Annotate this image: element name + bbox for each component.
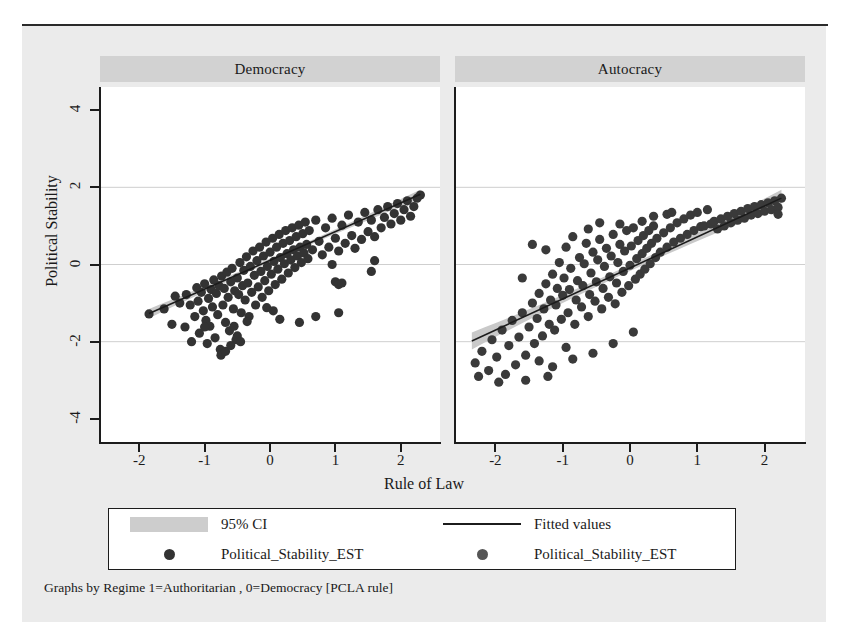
x-axis-tick: [494, 444, 496, 452]
x-axis-tick-label: -2: [480, 452, 510, 469]
panel-title-democracy: Democracy: [235, 61, 306, 78]
x-axis-tick: [629, 444, 631, 452]
x-axis-tick-label: 1: [320, 452, 350, 469]
x-axis-tick-label: 2: [386, 452, 416, 469]
x-axis-tick-label: -2: [124, 452, 154, 469]
y-axis-line-democracy: [99, 87, 101, 444]
legend-label-fitted: Fitted values: [534, 516, 611, 533]
x-axis-tick-label: -1: [190, 452, 220, 469]
legend-label-points-democracy: Political_Stability_EST: [221, 546, 364, 563]
x-axis-tick: [269, 444, 271, 452]
scatter-plot-autocracy: [455, 87, 805, 442]
ci-band-swatch-icon: [127, 515, 211, 533]
y-axis-tick: [90, 341, 99, 343]
x-axis-tick-label: 0: [615, 452, 645, 469]
legend-entry-fitted: Fitted values: [422, 515, 735, 533]
scatter-panel-autocracy: [455, 87, 805, 442]
y-axis-tick-label: 2: [67, 173, 84, 199]
x-axis-tick-label: 0: [255, 452, 285, 469]
panel-title-autocracy: Autocracy: [598, 61, 662, 78]
y-axis-title: Political Stability: [43, 131, 61, 331]
legend-entry-points-democracy: Political_Stability_EST: [109, 545, 422, 563]
legend-label-points-autocracy: Political_Stability_EST: [534, 546, 677, 563]
dot-marker-dark-icon: [127, 545, 211, 563]
legend-box: 95% CI Fitted values Political_Stability…: [108, 508, 736, 570]
x-axis-tick: [334, 444, 336, 452]
y-axis-tick-label: 0: [67, 250, 84, 276]
x-axis-tick: [204, 444, 206, 452]
x-axis-title: Rule of Law: [0, 475, 848, 493]
scatter-plot-democracy: [100, 87, 440, 442]
top-rule-divider: [22, 24, 828, 26]
panel-header-autocracy: Autocracy: [455, 56, 805, 82]
y-axis-tick-label: 4: [67, 96, 84, 122]
figure-root: Democracy Autocracy 420-2-4-2-1012-2-101…: [0, 0, 848, 641]
scatter-panel-democracy: [100, 87, 440, 442]
x-axis-tick: [400, 444, 402, 452]
y-axis-tick-label: -2: [67, 327, 84, 353]
y-axis-tick: [90, 109, 99, 111]
x-axis-tick: [138, 444, 140, 452]
figure-caption: Graphs by Regime 1=Authoritarian , 0=Dem…: [44, 580, 393, 596]
legend-entry-ci: 95% CI: [109, 515, 422, 533]
y-axis-tick: [90, 186, 99, 188]
panel-header-democracy: Democracy: [100, 56, 440, 82]
y-axis-line-autocracy: [454, 87, 456, 444]
x-axis-tick: [764, 444, 766, 452]
y-axis-tick: [90, 418, 99, 420]
fitted-line-swatch-icon: [440, 515, 524, 533]
x-axis-tick-label: 1: [682, 452, 712, 469]
y-axis-tick: [90, 264, 99, 266]
y-axis-tick-label: -4: [67, 404, 84, 430]
legend-entry-points-autocracy: Political_Stability_EST: [422, 545, 735, 563]
x-axis-tick: [562, 444, 564, 452]
x-axis-tick: [696, 444, 698, 452]
dot-marker-gray-icon: [440, 545, 524, 563]
x-axis-tick-label: 2: [750, 452, 780, 469]
x-axis-tick-label: -1: [548, 452, 578, 469]
legend-label-ci: 95% CI: [221, 516, 267, 533]
